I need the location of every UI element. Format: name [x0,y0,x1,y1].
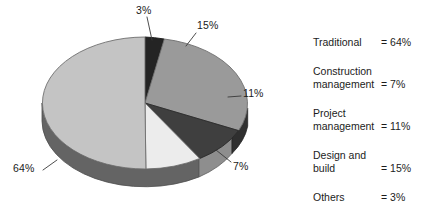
chart-legend: Traditional = 64% Construction managemen… [313,36,431,186]
pie-callout-others: 3% [136,4,151,16]
pie-chart-svg [0,0,290,209]
legend-item-construction-management: Construction management = 7% [313,65,431,91]
legend-value-construction-management: = 7% [381,78,431,91]
legend-item-others: Others = 3% [313,191,431,204]
pie-callout-project-management: 11% [243,87,264,99]
legend-label-construction-management: Construction management [313,65,381,91]
pie-chart-plot-area: 3% 15% 11% 7% 64% [0,0,290,209]
legend-label-traditional: Traditional [313,36,381,49]
pie-callout-design-and-build: 15% [197,19,218,31]
legend-item-design-and-build: Design and build = 15% [313,149,431,175]
pie-top-face [42,37,247,169]
legend-value-project-management: = 11% [381,120,431,133]
leader-line-others [147,17,152,40]
legend-item-project-management: Project management = 11% [313,107,431,133]
legend-value-traditional: = 64% [381,36,431,49]
pie-callout-construction-management: 7% [233,160,248,172]
leader-line-traditional [43,160,57,170]
legend-item-traditional: Traditional = 64% [313,36,431,49]
pie-callout-traditional: 64% [13,162,34,174]
legend-value-others: = 3% [381,191,431,204]
legend-value-design-and-build: = 15% [381,162,431,175]
pie-chart-figure: 3% 15% 11% 7% 64% Traditional = 64% Cons… [0,0,433,209]
legend-label-design-and-build: Design and build [313,149,381,175]
leader-line-design-and-build [186,33,196,46]
legend-label-project-management: Project management [313,107,381,133]
legend-label-others: Others [313,191,381,204]
